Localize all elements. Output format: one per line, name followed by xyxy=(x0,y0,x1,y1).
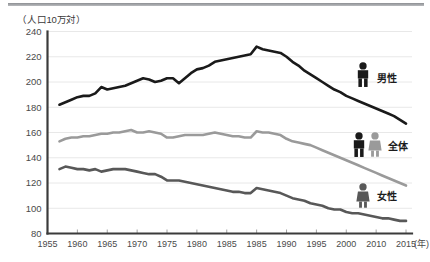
x-tick-label: 1985 xyxy=(247,239,267,249)
y-tick-label: 180 xyxy=(26,102,42,113)
y-tick-labels-group: 80100120140160180200220240 xyxy=(26,26,42,239)
pictogram-leg-left xyxy=(359,202,362,208)
pictogram-leg-left xyxy=(358,78,362,86)
x-tick-label: 2000 xyxy=(336,239,356,249)
x-tick-label: 1985 xyxy=(217,239,237,249)
y-tick-label: 100 xyxy=(26,203,42,214)
x-tick-label: 1955 xyxy=(37,239,57,249)
x-tick-label: 1995 xyxy=(306,239,326,249)
pictogram-leg-right xyxy=(364,78,368,86)
chart-figure: （人口10万対） 80100120140160180200220240 1955… xyxy=(0,0,430,262)
pictogram-head xyxy=(359,183,366,190)
x-tick-label: 2010 xyxy=(366,239,386,249)
y-tick-label: 80 xyxy=(31,228,42,239)
legend-label-total: 全体 xyxy=(387,140,409,152)
y-tick-label: 140 xyxy=(26,152,42,163)
y-tick-label: 120 xyxy=(26,177,42,188)
y-tick-label: 240 xyxy=(26,26,42,37)
x-tick-label: 1965 xyxy=(97,239,117,249)
pictogram-torso xyxy=(354,140,364,148)
legend-label-male: 男性 xyxy=(377,72,397,84)
pictogram-torso xyxy=(358,70,368,78)
legend-icon-total-male-pictogram xyxy=(354,132,364,157)
y-tick-label: 200 xyxy=(26,76,42,87)
series-line-female xyxy=(59,167,406,221)
legend-group: 男性全体女性 xyxy=(354,62,409,207)
legend-icon-total-female-pictogram xyxy=(368,132,381,156)
legend-icon-male-pictogram xyxy=(358,62,368,87)
y-tick-label: 160 xyxy=(26,127,42,138)
x-tick-label: 1970 xyxy=(127,239,147,249)
x-tick-label: 1960 xyxy=(67,239,87,249)
pictogram-head xyxy=(355,132,362,139)
x-tick-label: 1975 xyxy=(157,239,177,249)
pictogram-skirt-torso xyxy=(356,191,369,201)
x-tick-label: 1980 xyxy=(187,239,207,249)
data-series-group xyxy=(59,47,406,221)
pictogram-head xyxy=(371,132,378,139)
pictogram-leg-right xyxy=(360,148,364,156)
x-tick-labels-group: 1955196019651970197519801985198519901995… xyxy=(37,238,429,249)
y-tick-label: 220 xyxy=(26,51,42,62)
pictogram-leg-right xyxy=(364,202,367,208)
x-tick-label: 1990 xyxy=(277,239,297,249)
pictogram-head xyxy=(359,62,366,69)
pictogram-leg-right xyxy=(376,151,379,157)
legend-icon-female-pictogram xyxy=(356,183,369,207)
pictogram-leg-left xyxy=(371,151,374,157)
legend-label-female: 女性 xyxy=(377,190,397,202)
pictogram-skirt-torso xyxy=(368,140,381,150)
line-chart-plot: 80100120140160180200220240 1955196019651… xyxy=(0,0,430,262)
pictogram-leg-left xyxy=(354,148,358,156)
series-line-male xyxy=(59,47,406,124)
x-axis-unit-label: (年) xyxy=(414,238,429,249)
